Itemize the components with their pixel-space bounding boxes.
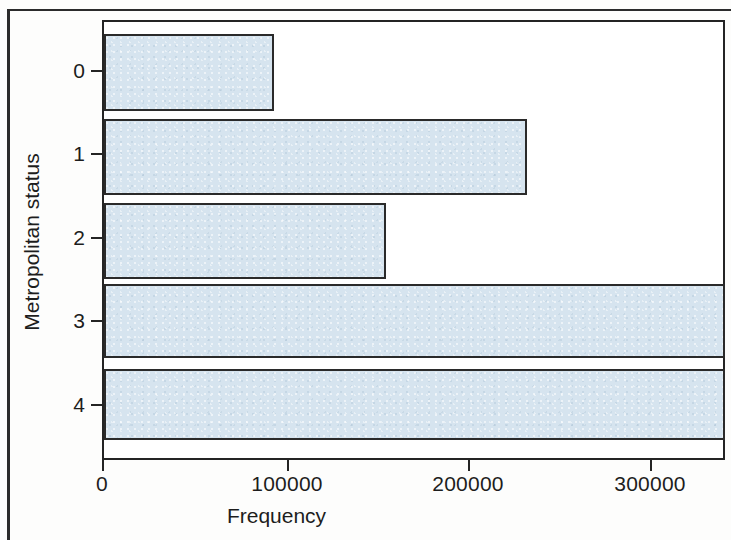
x-tick-label-300000: 300000: [595, 472, 705, 496]
y-tick-label-0: 0: [55, 59, 85, 83]
bar-category-1: [104, 119, 527, 195]
x-tick-0: [102, 460, 104, 471]
x-tick-label-100000: 100000: [232, 472, 342, 496]
bar-category-3: [104, 284, 725, 358]
y-tick-4: [91, 404, 102, 406]
y-axis-title: Metropolitan status: [20, 132, 44, 352]
y-tick-label-3: 3: [55, 309, 85, 333]
x-tick-label-200000: 200000: [413, 472, 523, 496]
y-tick-label-2: 2: [55, 226, 85, 250]
y-tick-1: [91, 153, 102, 155]
y-tick-label-1: 1: [55, 142, 85, 166]
bar-category-0: [104, 34, 274, 111]
bar-category-2: [104, 203, 386, 279]
bar-category-4: [104, 369, 725, 440]
x-tick-300000: [650, 460, 652, 471]
plot-area: [104, 22, 723, 458]
x-tick-200000: [468, 460, 470, 471]
x-tick-100000: [287, 460, 289, 471]
bar-chart-figure: 0 100000 200000 300000 0 1 2 3 4 Frequen…: [0, 0, 731, 540]
y-tick-2: [91, 237, 102, 239]
x-axis-title: Frequency: [0, 504, 731, 528]
y-tick-label-4: 4: [55, 393, 85, 417]
x-tick-label-0: 0: [82, 472, 122, 496]
scanned-page: 0 100000 200000 300000 0 1 2 3 4 Frequen…: [0, 0, 731, 540]
y-tick-0: [91, 70, 102, 72]
y-tick-3: [91, 320, 102, 322]
x-axis-title-text: Frequency: [227, 504, 326, 528]
